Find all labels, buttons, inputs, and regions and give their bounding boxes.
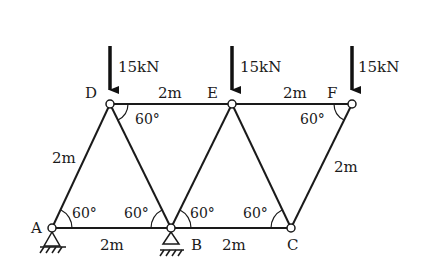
node-label-F: F [327, 84, 337, 102]
node-B [167, 224, 175, 232]
angle-label-F: 60° [300, 111, 325, 127]
roller-support-B [160, 232, 184, 256]
node-label-C: C [287, 236, 298, 254]
length-label-CF: 2m [334, 158, 358, 176]
angle-arc-F [334, 104, 344, 120]
node-C [287, 224, 295, 232]
pin-support-A [40, 232, 66, 253]
node-label-D: D [85, 84, 97, 102]
truss-diagram: 15kN 15kN 15kN D E F A B C 2m 2m 2m 2m 2… [0, 0, 429, 272]
angle-label-A: 60° [72, 205, 97, 221]
node-label-A: A [30, 219, 42, 237]
load-label-D: 15kN [118, 58, 159, 76]
angle-label-B-right: 60° [190, 205, 215, 221]
angle-label-B-left: 60° [124, 205, 149, 221]
angle-arc-B-left [151, 210, 162, 228]
length-label-DE: 2m [158, 84, 182, 102]
angle-arc-C [271, 210, 282, 228]
node-D [106, 100, 114, 108]
length-label-EF: 2m [283, 84, 307, 102]
angle-arc-A [61, 210, 72, 228]
angle-label-C: 60° [243, 205, 268, 221]
length-label-AB: 2m [100, 236, 124, 254]
length-label-BC: 2m [222, 236, 246, 254]
load-label-E: 15kN [240, 58, 281, 76]
angle-label-D: 60° [135, 111, 160, 127]
length-label-AD: 2m [52, 149, 76, 167]
load-label-F: 15kN [358, 58, 399, 76]
node-E [228, 100, 236, 108]
node-label-E: E [207, 84, 218, 102]
angle-arc-D [118, 104, 128, 120]
node-F [348, 100, 356, 108]
node-A [48, 224, 56, 232]
node-label-B: B [191, 236, 202, 254]
